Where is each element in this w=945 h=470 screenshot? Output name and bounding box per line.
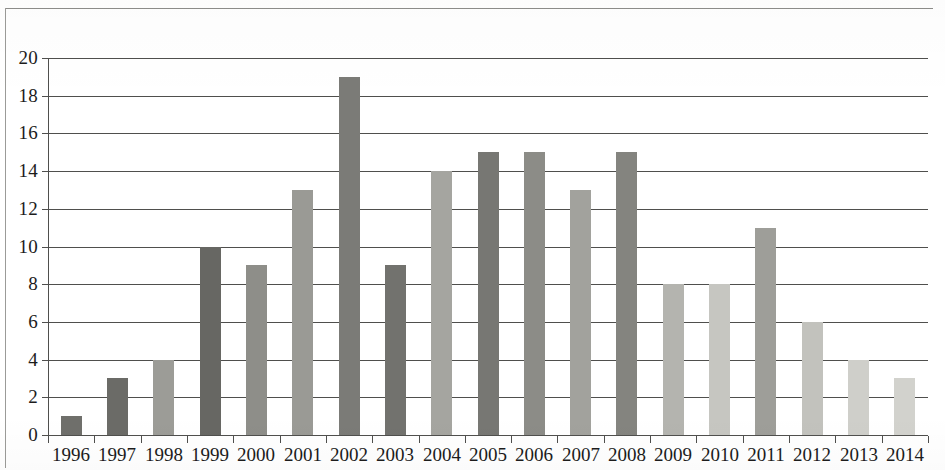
y-axis-tick-mark [42, 209, 49, 210]
bar [663, 284, 684, 435]
y-axis-tick-label: 12 [0, 199, 38, 218]
x-axis-tick-label: 2003 [369, 444, 421, 466]
x-axis-tick-label: 2000 [230, 444, 282, 466]
bar [200, 247, 221, 436]
x-axis-tick-label: 2008 [601, 444, 653, 466]
x-axis-tick-mark [465, 436, 466, 443]
y-axis-tick-mark [42, 96, 49, 97]
y-axis-tick-label: 2 [0, 387, 38, 406]
x-axis-tick-label: 2006 [508, 444, 560, 466]
y-axis-tick-mark [42, 284, 49, 285]
bar [709, 284, 730, 435]
x-axis-tick-mark [696, 436, 697, 443]
gridline [48, 133, 928, 134]
x-axis-tick-label: 2004 [416, 444, 468, 466]
x-axis-tick-mark [372, 436, 373, 443]
gridline [48, 96, 928, 97]
x-axis-tick-mark [928, 436, 929, 443]
x-axis-tick-label: 1997 [91, 444, 143, 466]
x-axis-tick-label: 2009 [647, 444, 699, 466]
y-axis-tick-label: 18 [0, 86, 38, 105]
y-axis-tick-label: 4 [0, 350, 38, 369]
y-axis-tick-mark [42, 133, 49, 134]
y-axis-tick-label-text: 20 [4, 48, 38, 67]
bar [107, 378, 128, 435]
x-axis-tick-label: 2010 [694, 444, 746, 466]
x-axis-tick-mark [48, 436, 49, 443]
bar [570, 190, 591, 435]
bar [524, 152, 545, 435]
bar [292, 190, 313, 435]
x-axis-tick-mark [141, 436, 142, 443]
bar [153, 360, 174, 435]
bar [431, 171, 452, 435]
y-axis-tick-label: 6 [0, 312, 38, 331]
x-axis-tick-mark [557, 436, 558, 443]
y-axis-tick-label: 16 [0, 123, 38, 142]
y-axis-tick-label: 10 [0, 237, 38, 256]
x-axis-tick-mark [511, 436, 512, 443]
x-axis-tick-mark [419, 436, 420, 443]
x-axis-tick-mark [280, 436, 281, 443]
x-axis-tick-mark [326, 436, 327, 443]
bar [616, 152, 637, 435]
y-axis-tick-label-text: 16 [4, 123, 38, 142]
y-axis-tick-mark [42, 171, 49, 172]
x-axis-tick-label: 1998 [138, 444, 190, 466]
y-axis-tick-mark [42, 247, 49, 248]
bar [61, 416, 82, 435]
bar [339, 77, 360, 435]
x-axis-tick-mark [233, 436, 234, 443]
x-axis-tick-label: 2011 [740, 444, 792, 466]
x-axis-tick-mark [187, 436, 188, 443]
x-axis-tick-label: 2002 [323, 444, 375, 466]
bar-chart-figure: 02468101214161820 1996199719981999200020… [0, 0, 945, 470]
x-axis-tick-label: 2007 [555, 444, 607, 466]
x-axis-tick-label: 1999 [184, 444, 236, 466]
x-axis-tick-mark [789, 436, 790, 443]
bar [385, 265, 406, 435]
y-axis-tick-label: 20 [0, 48, 38, 67]
y-axis-tick-mark [42, 360, 49, 361]
bar [246, 265, 267, 435]
plot-area: 02468101214161820 1996199719981999200020… [0, 0, 945, 470]
y-axis-tick-label-text: 4 [4, 350, 38, 369]
bar [848, 360, 869, 435]
x-axis-tick-mark [650, 436, 651, 443]
y-axis-tick-label-text: 2 [4, 387, 38, 406]
x-axis-line [48, 435, 928, 436]
x-axis-tick-mark [604, 436, 605, 443]
y-axis-tick-label-text: 12 [4, 199, 38, 218]
y-axis-tick-mark [42, 397, 49, 398]
y-axis-tick-label: 8 [0, 274, 38, 293]
x-axis-tick-mark [94, 436, 95, 443]
x-axis-tick-mark [743, 436, 744, 443]
bar [894, 378, 915, 435]
y-axis-tick-label-text: 14 [4, 161, 38, 180]
x-axis-tick-label: 2014 [879, 444, 931, 466]
y-axis-tick-label-text: 10 [4, 237, 38, 256]
y-axis-tick-label-text: 8 [4, 274, 38, 293]
x-axis-tick-mark [882, 436, 883, 443]
y-axis-tick-label: 14 [0, 161, 38, 180]
y-axis-tick-mark [42, 58, 49, 59]
x-axis-tick-label: 2001 [277, 444, 329, 466]
bar [802, 322, 823, 435]
x-axis-tick-label: 2005 [462, 444, 514, 466]
x-axis-tick-label: 1996 [45, 444, 97, 466]
x-axis-tick-mark [835, 436, 836, 443]
y-axis-tick-label-text: 0 [4, 425, 38, 444]
y-axis-tick-mark [42, 322, 49, 323]
x-axis-tick-label: 2012 [786, 444, 838, 466]
y-axis-tick-label-text: 6 [4, 312, 38, 331]
y-axis-tick-label: 0 [0, 425, 38, 444]
bar [478, 152, 499, 435]
gridline [48, 58, 928, 59]
bar [755, 228, 776, 435]
y-axis-tick-label-text: 18 [4, 86, 38, 105]
x-axis-tick-label: 2013 [833, 444, 885, 466]
